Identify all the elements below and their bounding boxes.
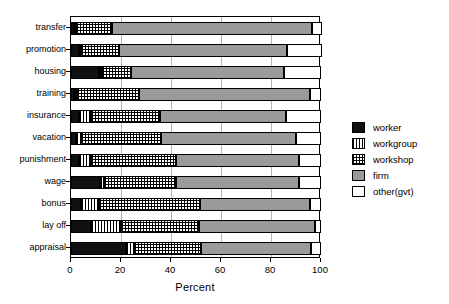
y-tick-mark — [66, 137, 70, 138]
bar-segment-firm — [176, 176, 299, 189]
bar-segment-workshop — [81, 132, 161, 145]
y-tick-label-housing: housing — [34, 66, 66, 76]
bar-segment-worker — [71, 154, 79, 167]
bar-segment-othergvt — [311, 242, 321, 255]
y-tick-mark — [66, 225, 70, 226]
bar-segment-workgroup — [81, 198, 99, 211]
legend-label-worker: worker — [373, 122, 402, 133]
bar-segment-worker — [71, 66, 99, 79]
bar-segment-othergvt — [299, 154, 322, 167]
legend-swatch-firm — [352, 170, 365, 181]
y-tick-label-wage: wage — [44, 176, 66, 186]
y-tick-mark — [66, 93, 70, 94]
stacked-bar-punishment — [71, 154, 319, 167]
y-tick-mark — [66, 71, 70, 72]
legend-swatch-worker — [352, 122, 365, 133]
stacked-bar-vacation — [71, 132, 319, 145]
bar-segment-worker — [71, 44, 79, 57]
stacked-bar-transfer — [71, 22, 319, 35]
chart-legend: workerworkgroupworkshopfirmother(gvt) — [352, 120, 447, 200]
legend-item-workgroup: workgroup — [352, 136, 447, 150]
bar-segment-othergvt — [286, 110, 321, 123]
bar-segment-firm — [160, 110, 286, 123]
y-tick-mark — [66, 159, 70, 160]
bar-segment-firm — [161, 132, 296, 145]
y-tick-mark — [66, 27, 70, 28]
bar-segment-workshop — [81, 44, 120, 57]
bar-segment-workgroup — [79, 110, 92, 123]
bar-segment-othergvt — [284, 66, 322, 79]
bar-segment-worker — [71, 110, 79, 123]
bar-row — [71, 39, 319, 61]
bar-segment-othergvt — [310, 88, 321, 101]
bar-segment-firm — [139, 88, 310, 101]
x-tick-label-60: 60 — [215, 264, 226, 275]
bar-segment-workshop — [76, 22, 112, 35]
y-tick-mark — [66, 115, 70, 116]
stacked-bar-wage — [71, 176, 319, 189]
bar-segment-firm — [176, 154, 299, 167]
legend-swatch-workshop — [352, 154, 365, 165]
stacked-bar-bonus — [71, 198, 319, 211]
x-tick-mark — [320, 258, 321, 262]
x-tick-mark — [170, 258, 171, 262]
bar-segment-firm — [200, 198, 310, 211]
stacked-bar-appraisal — [71, 242, 319, 255]
bar-row — [71, 17, 319, 39]
bar-segment-workgroup — [126, 242, 134, 255]
bar-segment-firm — [119, 44, 287, 57]
bar-row — [71, 193, 319, 215]
x-tick-mark — [70, 258, 71, 262]
bar-row — [71, 127, 319, 149]
plot-area — [70, 16, 320, 258]
stacked-bar-housing — [71, 66, 319, 79]
x-tick-label-100: 100 — [312, 264, 328, 275]
legend-label-workshop: workshop — [373, 154, 414, 165]
bar-segment-othergvt — [299, 176, 322, 189]
bar-segment-othergvt — [287, 44, 322, 57]
legend-item-othergvt: other(gvt) — [352, 184, 447, 198]
bar-segment-worker — [71, 198, 81, 211]
bar-segment-othergvt — [310, 198, 321, 211]
bar-segment-workshop — [121, 220, 199, 233]
bar-row — [71, 149, 319, 171]
stacked-bar-promotion — [71, 44, 319, 57]
bar-segment-firm — [201, 242, 311, 255]
y-tick-mark — [66, 203, 70, 204]
x-axis-title: Percent — [70, 281, 320, 293]
bar-segment-othergvt — [296, 132, 321, 145]
bar-segment-workshop — [77, 88, 138, 101]
bar-row — [71, 105, 319, 127]
y-tick-label-bonus: bonus — [41, 198, 66, 208]
y-tick-label-punishment: punishment — [19, 154, 66, 164]
bar-segment-firm — [112, 22, 312, 35]
bar-segment-worker — [71, 242, 126, 255]
bar-row — [71, 61, 319, 83]
x-tick-label-80: 80 — [265, 264, 276, 275]
stacked-bar-training — [71, 88, 319, 101]
bar-segment-workgroup — [91, 220, 121, 233]
bar-segment-worker — [71, 176, 100, 189]
y-tick-label-appraisal: appraisal — [29, 242, 66, 252]
bar-segment-workshop — [102, 66, 131, 79]
x-tick-label-0: 0 — [67, 264, 72, 275]
y-tick-mark — [66, 247, 70, 248]
y-tick-label-transfer: transfer — [35, 22, 66, 32]
stacked-bar-insurance — [71, 110, 319, 123]
legend-swatch-workgroup — [352, 138, 365, 149]
bar-segment-workshop — [104, 176, 177, 189]
bar-segment-firm — [199, 220, 315, 233]
x-tick-mark — [120, 258, 121, 262]
bar-row — [71, 83, 319, 105]
legend-item-firm: firm — [352, 168, 447, 182]
bar-row — [71, 237, 319, 259]
x-tick-label-20: 20 — [115, 264, 126, 275]
x-tick-mark — [270, 258, 271, 262]
bar-segment-othergvt — [315, 220, 321, 233]
legend-label-workgroup: workgroup — [373, 138, 417, 149]
y-tick-label-vacation: vacation — [32, 132, 66, 142]
legend-item-workshop: workshop — [352, 152, 447, 166]
x-tick-mark — [220, 258, 221, 262]
legend-label-othergvt: other(gvt) — [373, 186, 414, 197]
legend-swatch-othergvt — [352, 186, 365, 197]
